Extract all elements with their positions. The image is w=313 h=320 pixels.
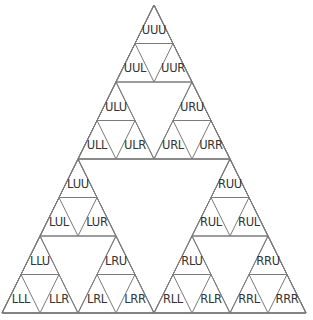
label-rll: RLL [155, 293, 191, 305]
label-rrr: RRR [269, 293, 305, 305]
label-lrr: LRR [117, 293, 153, 305]
label-ulr: ULR [117, 139, 153, 151]
label-url: URL [155, 139, 191, 151]
label-rur: RUL [231, 216, 267, 228]
sierpinski-diagram [0, 0, 313, 320]
label-llr: LLR [41, 293, 77, 305]
label-urr: URR [193, 139, 229, 151]
label-luu: LUU [60, 178, 96, 190]
label-rul: RUL [193, 216, 229, 228]
label-lrl: LRL [79, 293, 115, 305]
label-rrl: RRL [231, 293, 267, 305]
label-llu: LLU [22, 255, 58, 267]
label-lru: LRU [98, 255, 134, 267]
label-lur: LUR [79, 216, 115, 228]
label-ulu: ULU [98, 101, 134, 113]
label-ruu: RUU [212, 178, 248, 190]
label-rlu: RLU [174, 255, 210, 267]
label-lll: LLL [3, 293, 39, 305]
label-lul: LUL [41, 216, 77, 228]
label-ull: ULL [79, 139, 115, 151]
label-rlr: RLR [193, 293, 229, 305]
label-uru: URU [174, 101, 210, 113]
label-uuu: UUU [136, 24, 172, 36]
label-uul: UUL [117, 62, 153, 74]
label-rru: RRU [250, 255, 286, 267]
label-uur: UUR [155, 62, 191, 74]
